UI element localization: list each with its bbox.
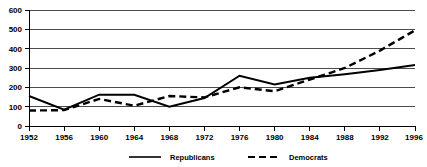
x-tick-label-1980: 1980 [266, 133, 284, 142]
x-tick-label-1964: 1964 [125, 133, 143, 142]
y-tick-label-300: 300 [9, 64, 23, 73]
x-tick-label-1988: 1988 [336, 133, 354, 142]
x-tick-label-1956: 1956 [55, 133, 73, 142]
x-tick-label-1968: 1968 [160, 133, 178, 142]
x-tick-label-1960: 1960 [90, 133, 108, 142]
x-tick-label-1992: 1992 [371, 133, 389, 142]
gridlines [29, 10, 415, 107]
legend: Republicans Democrats [129, 153, 328, 162]
legend-label-republicans: Republicans [170, 153, 215, 162]
y-axis [25, 10, 29, 126]
y-tick-label-500: 500 [9, 25, 23, 34]
y-tick-label-0: 0 [18, 122, 23, 131]
x-tick-label-1976: 1976 [231, 133, 249, 142]
series-line-democrats [29, 30, 415, 110]
x-tick-label-1972: 1972 [196, 133, 214, 142]
x-tick-label-1996: 1996 [405, 133, 423, 142]
data-series [29, 30, 415, 110]
x-tick-label-1952: 1952 [20, 133, 38, 142]
y-axis-tick-labels: 600 500 400 300 200 100 0 [9, 6, 23, 131]
x-axis [29, 126, 415, 131]
chart-canvas: 600 500 400 300 200 100 0 1952 1956 [0, 0, 427, 167]
legend-label-democrats: Democrats [289, 153, 328, 162]
x-tick-label-1984: 1984 [301, 133, 319, 142]
y-tick-label-400: 400 [9, 45, 23, 54]
y-tick-label-200: 200 [9, 83, 23, 92]
line-chart: 600 500 400 300 200 100 0 1952 1956 [0, 0, 427, 167]
x-axis-tick-labels: 1952 1956 1960 1964 1968 1972 1976 1980 … [20, 133, 423, 142]
y-tick-label-600: 600 [9, 6, 23, 15]
y-tick-label-100: 100 [9, 103, 23, 112]
